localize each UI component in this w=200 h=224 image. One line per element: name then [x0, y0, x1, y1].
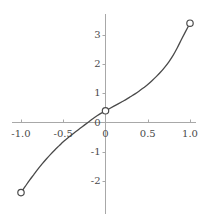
marker-left-endpoint [18, 189, 24, 195]
x-tick-label-3: 0.5 [140, 129, 156, 139]
x-tick-label-0: -1.0 [11, 129, 30, 139]
chart-figure: -1.0-0.500.51.0 3210-1-2 [0, 0, 200, 224]
y-tick-label-5: -2 [91, 176, 101, 186]
x-tick-label-2: 0 [102, 129, 108, 139]
y-tick-label-4: -1 [91, 147, 101, 157]
marker-origin-point [102, 108, 108, 114]
y-tick-label-1: 2 [94, 59, 100, 69]
marker-right-endpoint [187, 20, 193, 26]
y-tick-label-0: 3 [94, 30, 100, 40]
y-tick-label-3: 0 [94, 118, 100, 128]
x-tick-label-1: -0.5 [54, 129, 73, 139]
x-tick-label-4: 1.0 [182, 129, 198, 139]
y-tick-label-2: 1 [94, 88, 100, 98]
